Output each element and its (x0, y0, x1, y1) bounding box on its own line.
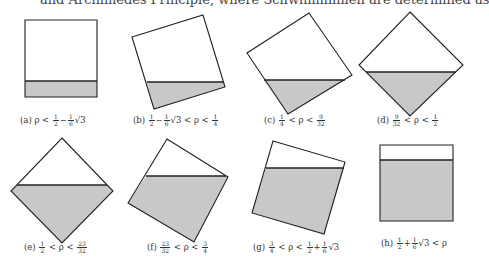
submerged-region (147, 82, 225, 109)
caption-e: (e) 12 < ρ < 2332 (24, 241, 88, 254)
submerged-region (380, 160, 453, 221)
panel-d (359, 12, 463, 116)
panel-e (11, 138, 113, 243)
caption-a: (a) ρ < 12−16√3 (20, 114, 86, 127)
panel-c (247, 13, 352, 114)
caption-g: (g) 34 < ρ < 12+16√3 (253, 241, 339, 254)
caption-h: (h) 12+16√3 < ρ (381, 237, 447, 250)
panel-h (380, 145, 453, 221)
submerged-region (11, 185, 113, 243)
panel-a (25, 20, 97, 97)
caption-f: (f) 2332 < ρ < 34 (147, 241, 209, 254)
submerged-region (25, 81, 97, 97)
caption-d: (d) 932 < ρ < 12 (377, 114, 439, 127)
caption-b: (b) 12−16√3 < ρ < 14 (133, 114, 219, 127)
panel-g (252, 141, 345, 234)
panel-b (132, 15, 225, 109)
panel-f (128, 139, 228, 242)
caption-c: (c) 14 < ρ < 932 (264, 114, 326, 127)
submerged-region (252, 168, 344, 234)
submerged-region (366, 72, 456, 116)
